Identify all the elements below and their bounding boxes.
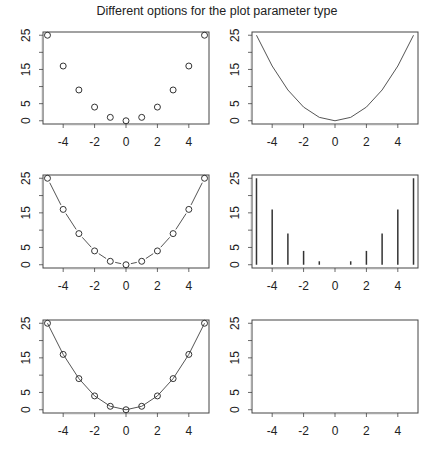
y-tick-label: 5 [19, 389, 33, 396]
y-tick-label: 0 [228, 261, 242, 268]
x-tick-label: 2 [154, 279, 161, 293]
data-line-segment [66, 214, 76, 230]
y-tick-label: 0 [19, 117, 33, 124]
y-axis: 051525 [228, 28, 252, 124]
data-point-marker [44, 32, 50, 38]
x-tick-label: 0 [332, 279, 339, 293]
x-tick-label: -4 [58, 135, 69, 149]
plot-frame [43, 320, 209, 413]
x-tick-label: -2 [298, 424, 309, 438]
y-tick-label: 5 [228, 100, 242, 107]
data-series [44, 32, 207, 124]
y-tick-label: 15 [19, 351, 33, 365]
data-line-segment [146, 254, 153, 259]
data-line-segment [191, 183, 202, 205]
plot-panel-type-o: -4-2024051525 [19, 316, 209, 438]
x-axis: -4-2024 [267, 268, 402, 293]
y-tick-label: 15 [228, 206, 242, 220]
y-tick-label: 25 [19, 28, 33, 42]
x-tick-label: 0 [123, 279, 130, 293]
x-tick-label: -4 [58, 279, 69, 293]
data-point-marker [186, 206, 192, 212]
x-tick-label: 4 [185, 424, 192, 438]
y-axis: 051525 [19, 316, 43, 413]
data-point-marker [92, 248, 98, 254]
data-point-marker [76, 231, 82, 237]
x-tick-label: 4 [185, 279, 192, 293]
y-tick-label: 15 [228, 62, 242, 76]
data-point-marker [60, 63, 66, 69]
y-tick-label: 5 [228, 389, 242, 396]
y-tick-label: 15 [19, 206, 33, 220]
data-point-marker [60, 206, 66, 212]
plot-frame [252, 32, 418, 124]
x-tick-label: -4 [267, 135, 278, 149]
x-tick-label: 0 [332, 424, 339, 438]
y-tick-label: 0 [228, 117, 242, 124]
x-tick-label: 4 [185, 135, 192, 149]
data-point-marker [92, 104, 98, 110]
data-line-segment [176, 214, 186, 230]
data-point-marker [44, 175, 50, 181]
y-tick-label: 15 [228, 351, 242, 365]
plot-panel-type-p: -4-2024051525 [19, 28, 209, 149]
data-line-segment [131, 262, 137, 263]
y-axis: 051525 [228, 171, 252, 268]
data-point-marker [154, 104, 160, 110]
x-tick-label: -4 [267, 279, 278, 293]
y-tick-label: 15 [19, 62, 33, 76]
plot-panel-type-h: -4-2024051525 [228, 171, 418, 293]
x-tick-label: 4 [394, 279, 401, 293]
data-series [256, 35, 413, 121]
y-tick-label: 25 [19, 316, 33, 330]
data-line-segment [161, 237, 170, 247]
x-tick-label: 4 [394, 424, 401, 438]
data-line-segment [99, 254, 106, 259]
plot-frame [252, 320, 418, 413]
data-series [44, 175, 207, 267]
x-tick-label: 2 [363, 135, 370, 149]
y-tick-label: 0 [19, 261, 33, 268]
plot-frame [43, 175, 209, 268]
data-point-marker [154, 248, 160, 254]
data-line [47, 323, 204, 409]
data-point-marker [76, 87, 82, 93]
plot-frame [43, 32, 209, 124]
x-tick-label: 0 [123, 135, 130, 149]
x-tick-label: 0 [332, 135, 339, 149]
data-point-marker [107, 258, 113, 264]
data-series [256, 178, 413, 264]
plot-grid: -4-2024051525-4-2024051525-4-2024051525-… [0, 0, 434, 454]
y-axis: 051525 [19, 28, 43, 124]
data-series [44, 320, 207, 412]
data-line-segment [115, 262, 121, 263]
x-tick-label: 2 [154, 424, 161, 438]
y-tick-label: 25 [228, 28, 242, 42]
x-axis: -4-2024 [267, 124, 402, 149]
data-line-segment [82, 237, 91, 247]
y-tick-label: 5 [228, 244, 242, 251]
plot-panel-type-b: -4-2024051525 [19, 171, 209, 293]
x-axis: -4-2024 [58, 413, 193, 438]
x-axis: -4-2024 [58, 124, 193, 149]
y-tick-label: 25 [19, 171, 33, 185]
data-point-marker [107, 114, 113, 120]
data-point-marker [170, 87, 176, 93]
x-tick-label: 2 [154, 135, 161, 149]
y-tick-label: 0 [228, 406, 242, 413]
data-point-marker [139, 258, 145, 264]
x-tick-label: 2 [363, 279, 370, 293]
y-tick-label: 0 [19, 406, 33, 413]
x-tick-label: 4 [394, 135, 401, 149]
x-tick-label: -2 [298, 279, 309, 293]
x-tick-label: -2 [298, 135, 309, 149]
x-tick-label: -2 [89, 279, 100, 293]
data-point-marker [202, 32, 208, 38]
plot-frame [252, 175, 418, 268]
y-axis: 051525 [228, 316, 252, 413]
x-axis: -4-2024 [267, 413, 402, 438]
data-point-marker [170, 231, 176, 237]
plot-panel-type-n: -4-2024051525 [228, 316, 418, 438]
x-tick-label: -2 [89, 424, 100, 438]
y-tick-label: 25 [228, 316, 242, 330]
